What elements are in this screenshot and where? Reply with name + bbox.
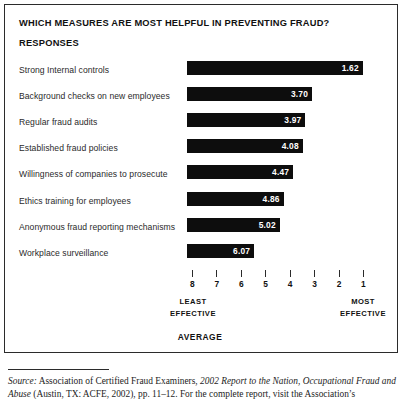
axis-tick-label: 1 — [357, 279, 371, 289]
bar: 4.08 — [187, 139, 303, 153]
bar-category-label: Anonymous fraud reporting mechanisms — [19, 222, 175, 232]
bar-value-label: 4.47 — [272, 166, 289, 178]
bar-category-label: Ethics training for employees — [19, 196, 131, 206]
table-row: Workplace surveillance6.07 — [5, 244, 397, 264]
chart-title: WHICH MEASURES ARE MOST HELPFUL IN PREVE… — [19, 18, 330, 28]
axis-tick — [265, 270, 266, 277]
responses-header: RESPONSES — [19, 38, 79, 48]
bar-category-label: Background checks on new employees — [19, 91, 170, 101]
table-row: Regular fraud audits3.97 — [5, 113, 397, 133]
table-row: Willingness of companies to prosecute4.4… — [5, 165, 397, 185]
bar-category-label: Established fraud policies — [19, 143, 118, 153]
axis-tick — [290, 270, 291, 277]
source-text-part1: Association of Certified Fraud Examiners… — [37, 376, 200, 386]
axis-tick — [314, 270, 315, 277]
bar-category-label: Workplace surveillance — [19, 248, 108, 258]
bar: 3.97 — [187, 113, 305, 127]
axis-tick-label: 4 — [283, 279, 297, 289]
axis-tick-label: 6 — [234, 279, 248, 289]
bar: 5.02 — [187, 218, 280, 232]
most-effective-line1: MOST — [328, 296, 398, 308]
bar-category-label: Willingness of companies to prosecute — [19, 169, 168, 179]
least-effective-line1: LEAST — [158, 296, 228, 308]
bar: 6.07 — [187, 244, 254, 258]
source-divider — [8, 369, 109, 370]
bar-value-label: 4.08 — [282, 140, 299, 152]
table-row: Background checks on new employees3.70 — [5, 87, 397, 107]
axis-tick — [192, 270, 193, 277]
table-row: Established fraud policies4.08 — [5, 139, 397, 159]
most-effective-line2: EFFECTIVE — [328, 308, 398, 320]
source-note: Source: Association of Certified Fraud E… — [8, 375, 403, 401]
least-effective-line2: EFFECTIVE — [158, 308, 228, 320]
bar: 4.86 — [187, 192, 284, 206]
table-row: Ethics training for employees4.86 — [5, 192, 397, 212]
axis-most-effective-label: MOST EFFECTIVE — [328, 296, 398, 319]
bar: 1.62 — [187, 61, 363, 75]
bar-value-label: 6.07 — [233, 245, 250, 257]
axis-least-effective-label: LEAST EFFECTIVE — [158, 296, 228, 319]
axis-tick — [216, 270, 217, 277]
bar: 4.47 — [187, 165, 293, 179]
bar-value-label: 3.70 — [291, 88, 308, 100]
bar-value-label: 5.02 — [259, 219, 276, 231]
axis-tick-label: 5 — [259, 279, 273, 289]
axis-tick-label: 7 — [210, 279, 224, 289]
chart-container: WHICH MEASURES ARE MOST HELPFUL IN PREVE… — [4, 4, 398, 353]
axis-tick — [241, 270, 242, 277]
bar-category-label: Regular fraud audits — [19, 117, 97, 127]
axis-tick — [363, 270, 364, 277]
source-text-part2: (Austin, TX: ACFE, 2002), pp. 11–12. For… — [31, 389, 355, 399]
source-lead: Source: — [8, 376, 37, 386]
bar-value-label: 4.86 — [263, 193, 280, 205]
x-axis-title: AVERAGE — [165, 332, 235, 342]
bar: 3.70 — [187, 87, 312, 101]
table-row: Anonymous fraud reporting mechanisms5.02 — [5, 218, 397, 238]
axis-tick-label: 2 — [332, 279, 346, 289]
axis-tick — [339, 270, 340, 277]
bar-value-label: 3.97 — [284, 114, 301, 126]
bar-category-label: Strong Internal controls — [19, 65, 109, 75]
table-row: Strong Internal controls1.62 — [5, 61, 397, 81]
axis-tick-label: 3 — [308, 279, 322, 289]
axis-tick-label: 8 — [186, 279, 200, 289]
bar-value-label: 1.62 — [342, 62, 359, 74]
